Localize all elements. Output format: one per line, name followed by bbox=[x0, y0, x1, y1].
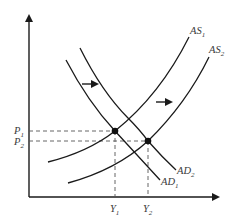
guide-lines bbox=[29, 131, 148, 197]
equilibrium-point-2 bbox=[145, 138, 152, 145]
ad2-label: AD2 bbox=[176, 165, 195, 179]
as-ad-diagram: AS1 AS2 AD2 AD1 P1 P2 Y1 Y2 bbox=[0, 0, 234, 221]
ad2-curve bbox=[80, 48, 176, 170]
ad1-label: AD1 bbox=[160, 176, 179, 190]
ad1-curve bbox=[66, 60, 160, 180]
y2-label: Y2 bbox=[143, 203, 153, 217]
equilibrium-point-1 bbox=[112, 128, 119, 135]
y1-label: Y1 bbox=[110, 203, 119, 217]
as2-label: AS2 bbox=[208, 44, 225, 58]
as1-curve bbox=[48, 37, 189, 162]
as1-label: AS1 bbox=[189, 25, 205, 39]
